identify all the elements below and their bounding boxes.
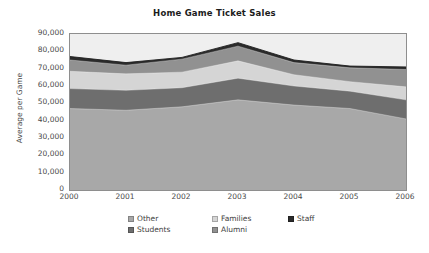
y-axis-tick-label: 70,000 bbox=[24, 64, 64, 72]
y-axis-tick-label: 60,000 bbox=[24, 81, 64, 89]
legend-item-label: Families bbox=[221, 214, 251, 223]
legend-swatch-icon bbox=[212, 227, 218, 233]
chart-title: Home Game Ticket Sales bbox=[0, 8, 429, 18]
x-axis-tick-label: 2005 bbox=[329, 192, 369, 201]
legend-item-label: Other bbox=[137, 214, 158, 223]
x-axis-tick-label: 2006 bbox=[385, 192, 425, 201]
x-axis-tick-label: 2003 bbox=[217, 192, 257, 201]
x-axis-tick-label: 2002 bbox=[161, 192, 201, 201]
y-axis-tick-label: 40,000 bbox=[24, 116, 64, 124]
y-axis-tick-label: 50,000 bbox=[24, 98, 64, 106]
x-axis-tick-label: 2000 bbox=[49, 192, 89, 201]
chart-container: Home Game Ticket Sales Average per Game … bbox=[0, 0, 429, 253]
legend-item-label: Students bbox=[137, 225, 170, 234]
legend-swatch-icon bbox=[288, 216, 294, 222]
y-axis-tick-labels: 010,00020,00030,00040,00050,00060,00070,… bbox=[22, 0, 64, 253]
area-band-other bbox=[70, 100, 406, 190]
y-axis-tick-label: 10,000 bbox=[24, 168, 64, 176]
y-axis-tick-label: 30,000 bbox=[24, 133, 64, 141]
legend-item-students[interactable]: Students bbox=[128, 225, 170, 234]
y-axis-title: Average per Game bbox=[8, 48, 22, 168]
x-axis-tick-label: 2001 bbox=[105, 192, 145, 201]
y-axis-tick-label: 20,000 bbox=[24, 150, 64, 158]
legend-item-families[interactable]: Families bbox=[212, 214, 251, 223]
y-axis-tick-label: 90,000 bbox=[24, 29, 64, 37]
legend-item-staff[interactable]: Staff bbox=[288, 214, 314, 223]
legend-swatch-icon bbox=[128, 216, 134, 222]
x-axis-tick-label: 2004 bbox=[273, 192, 313, 201]
x-axis-tick-labels: 2000200120022003200420052006 bbox=[0, 192, 429, 204]
plot-area bbox=[69, 33, 407, 191]
legend-swatch-icon bbox=[128, 227, 134, 233]
legend-item-label: Alumni bbox=[221, 225, 247, 234]
legend-item-other[interactable]: Other bbox=[128, 214, 158, 223]
legend-item-alumni[interactable]: Alumni bbox=[212, 225, 247, 234]
legend-item-label: Staff bbox=[297, 214, 314, 223]
y-axis-tick-label: 80,000 bbox=[24, 46, 64, 54]
legend-swatch-icon bbox=[212, 216, 218, 222]
stacked-area-plot bbox=[70, 34, 406, 190]
chart-legend: OtherFamiliesStaffStudentsAlumni bbox=[128, 214, 338, 242]
